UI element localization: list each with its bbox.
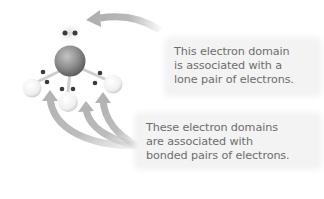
electron-dot: [63, 31, 68, 36]
callout-line: is associated with a: [174, 59, 318, 73]
callout-line: This electron domain: [174, 45, 318, 59]
outer-atom-left: [23, 79, 42, 98]
callout-line: bonded pairs of electrons.: [146, 149, 318, 163]
central-atom: [55, 46, 86, 77]
callout-line: lone pair of electrons.: [174, 73, 318, 87]
outer-atom-right: [104, 75, 123, 94]
molecule-diagram: [0, 0, 324, 199]
callout-line: are associated with: [146, 135, 318, 149]
outer-atom-front: [58, 92, 78, 112]
callout-line: These electron domains: [146, 121, 318, 135]
lone-pair-cloud: [56, 21, 84, 45]
lone-pair-callout: This electron domain is associated with …: [168, 41, 318, 93]
electron-dot: [73, 31, 78, 36]
bonded-pairs-callout: These electron domains are associated wi…: [138, 116, 318, 166]
lone-pair-arrow: [86, 10, 160, 30]
